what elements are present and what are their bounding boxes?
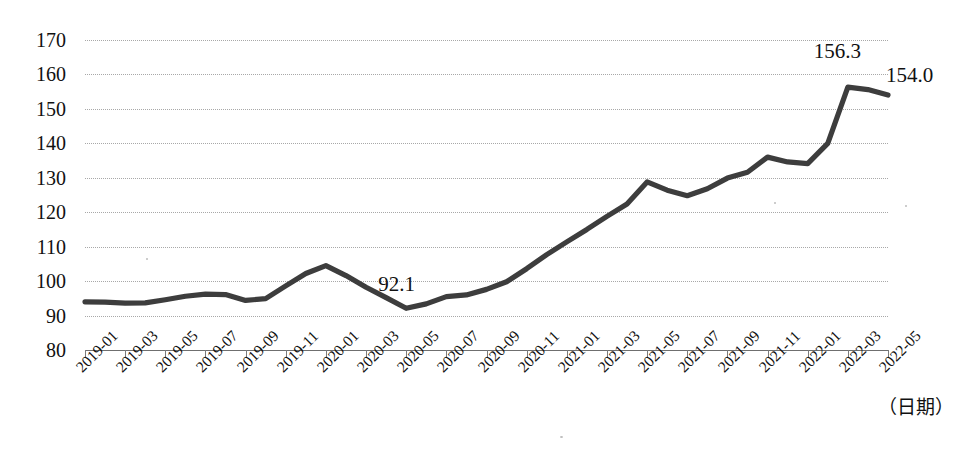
scan-speckle (905, 205, 907, 207)
y-axis-tick-label: 90 (20, 306, 66, 326)
scan-speckle (560, 436, 563, 438)
scan-speckle (774, 202, 776, 204)
y-axis-tick-labels: 1701601501401301201101009080 (20, 0, 66, 456)
y-axis-tick-label: 130 (20, 168, 66, 188)
y-axis-tick-label: 140 (20, 133, 66, 153)
y-axis-tick-label: 120 (20, 202, 66, 222)
plot-area (85, 40, 888, 350)
x-axis-title: （日期） (878, 392, 954, 419)
scan-speckle (146, 258, 148, 260)
data-label: 92.1 (378, 274, 415, 295)
y-axis-tick-label: 80 (20, 340, 66, 360)
data-label: 156.3 (814, 41, 861, 62)
series-line (85, 40, 888, 350)
y-axis-tick-label: 160 (20, 64, 66, 84)
data-label: 154.0 (886, 65, 933, 86)
scan-speckle (362, 368, 364, 370)
y-axis-tick-label: 110 (20, 237, 66, 257)
line-chart: 1701601501401301201101009080 2019-012019… (0, 0, 954, 456)
y-axis-tick-label: 170 (20, 30, 66, 50)
y-axis-tick-label: 150 (20, 99, 66, 119)
y-axis-tick-label: 100 (20, 271, 66, 291)
